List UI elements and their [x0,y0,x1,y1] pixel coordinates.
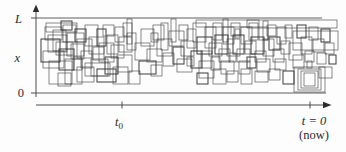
event-rectangle [75,29,86,42]
event-rectangle [173,47,184,64]
event-rectangle [193,23,206,42]
event-rectangle [298,69,321,90]
event-rectangle [179,25,188,40]
event-rectangle [213,69,226,84]
event-rectangle [304,73,315,86]
event-rectangle [77,67,94,82]
now-label: t = 0 [302,114,327,128]
event-rectangle [123,23,132,36]
spacetime-figure: L x 0 t0 t = 0 (now) [0,0,346,152]
event-rectangle [45,27,62,40]
event-rectangle [293,55,304,68]
event-rectangle [221,61,234,74]
rectangles-layer [41,19,338,92]
event-rectangle [129,71,140,84]
event-rectangle [115,27,124,42]
event-rectangle [301,71,318,88]
event-rectangle [301,37,312,54]
event-rectangle [97,29,106,46]
event-rectangle [113,67,128,84]
event-rectangle [277,27,286,44]
event-rectangle [63,25,76,42]
time-axis: t0 t = 0 (now) [36,102,332,143]
event-rectangle [231,23,240,36]
event-rectangle [43,51,64,68]
event-rectangle [215,35,228,54]
event-rectangle [111,45,124,58]
event-rectangle [223,19,228,42]
event-rectangle [273,49,284,62]
event-rectangle [211,57,220,70]
event-rectangle [196,20,259,27]
event-rectangle [257,59,270,72]
event-rectangle [197,73,208,84]
event-rectangle [93,47,104,60]
time-axis-arrow-right-icon [323,102,332,108]
event-rectangle [107,35,118,54]
event-rectangle [317,53,326,64]
event-rectangle [289,43,302,60]
event-rectangle [325,43,334,54]
event-rectangle [61,21,72,30]
t0-label: t0 [115,115,123,131]
y-label-x: x [13,51,20,65]
event-rectangle [269,69,280,80]
event-rectangle [161,23,168,50]
event-rectangle [41,39,60,62]
event-rectangle [283,71,294,84]
y-axis-arrow-up-icon [33,5,39,13]
event-rectangle [127,33,136,50]
event-rectangle [157,39,172,56]
event-rectangle [309,27,318,40]
event-rectangle [251,37,264,54]
event-rectangle [297,25,306,38]
event-rectangle [49,61,72,84]
event-rectangle [241,69,252,84]
event-rectangle [247,57,256,68]
event-rectangle [181,41,194,56]
event-rectangle [187,29,196,48]
y-label-0: 0 [18,86,24,100]
event-rectangle [305,51,314,62]
event-rectangle [255,71,268,82]
event-rectangle [139,61,156,74]
y-label-L: L [14,12,22,26]
event-rectangle [163,53,174,66]
event-rectangle [117,55,132,72]
event-rectangle [275,59,286,70]
event-rectangle [293,31,338,50]
now-paren-label: (now) [299,128,329,142]
y-axis: L x 0 [13,5,39,101]
event-rectangle [213,23,222,40]
event-rectangle [153,25,164,40]
event-rectangle [171,19,176,42]
event-rectangle [103,25,114,36]
event-rectangle [141,29,154,46]
diagram-canvas: L x 0 t0 t = 0 (now) [0,0,346,152]
event-rectangle [235,29,240,38]
event-rectangle [267,25,276,36]
event-rectangle [329,55,336,64]
event-rectangle [227,71,238,82]
event-rectangle [81,51,92,68]
event-rectangle [281,41,290,54]
event-rectangle [135,43,150,60]
event-rectangle [85,25,98,46]
